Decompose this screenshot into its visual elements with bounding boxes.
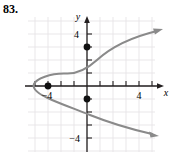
- x-tick-label-negative-4: −4: [42, 90, 53, 101]
- y-axis: [84, 16, 90, 152]
- x-axis-label: x: [163, 87, 169, 98]
- x-axis-ticks: [35, 81, 152, 86]
- x-tick-label-4: 4: [137, 90, 142, 101]
- point-0-neg1: [84, 96, 91, 103]
- graph-figure: y x −4 4 4 −4: [0, 0, 176, 160]
- y-tick-label-4: 4: [74, 29, 79, 40]
- parabola-curve: [34, 29, 163, 138]
- point-0-3: [84, 44, 91, 51]
- y-tick-label-negative-4: −4: [69, 133, 80, 144]
- coordinate-plane-svg: y x −4 4 4 −4: [0, 0, 176, 160]
- point-neg3-1: [45, 83, 52, 90]
- y-axis-label: y: [75, 11, 81, 22]
